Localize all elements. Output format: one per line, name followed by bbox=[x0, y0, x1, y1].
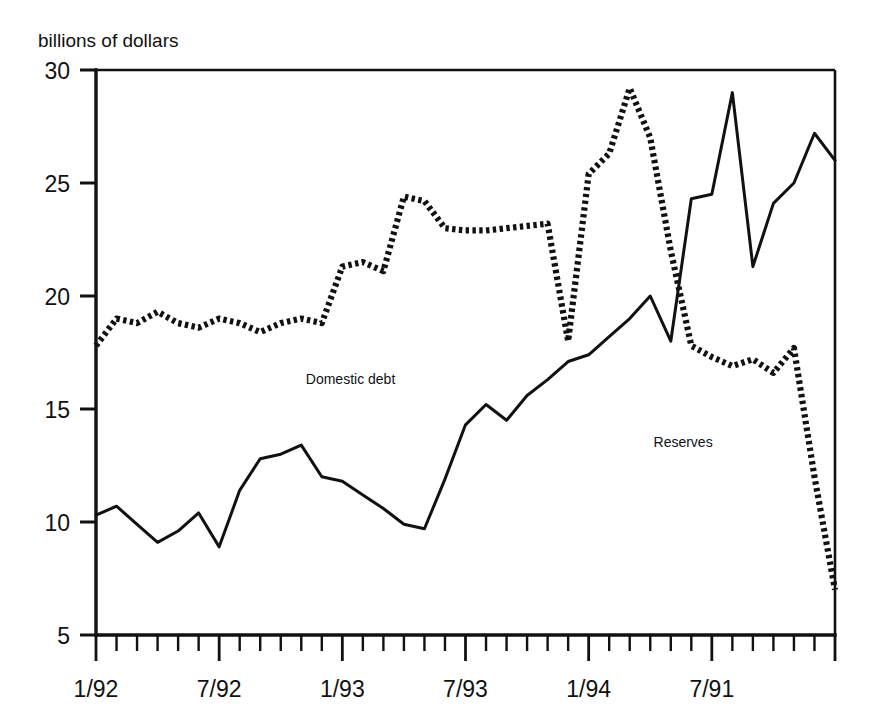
y-axis-ticks bbox=[80, 70, 96, 635]
y-tick-label: 10 bbox=[44, 510, 70, 536]
x-tick-label: 1/92 bbox=[74, 676, 119, 702]
y-tick-label: 30 bbox=[44, 58, 70, 84]
y-tick-label: 5 bbox=[57, 623, 70, 649]
y-tick-label: 15 bbox=[44, 397, 70, 423]
series-annotations: Domestic debtReserves bbox=[306, 371, 713, 450]
series-annotation-label: Reserves bbox=[654, 434, 713, 450]
series-line-domestic-debt bbox=[96, 93, 835, 547]
x-tick-label: 7/92 bbox=[197, 676, 242, 702]
x-tick-label: 7/93 bbox=[443, 676, 488, 702]
y-tick-label: 20 bbox=[44, 284, 70, 310]
x-tick-label: 1/93 bbox=[320, 676, 365, 702]
x-axis-tick-labels: 1/927/921/937/931/947/91 bbox=[74, 676, 735, 702]
line-chart: billions of dollars 51015202530 1/927/92… bbox=[0, 0, 885, 724]
x-axis-ticks bbox=[96, 635, 835, 661]
series-line-reserves bbox=[96, 88, 835, 590]
chart-container: billions of dollars 51015202530 1/927/92… bbox=[0, 0, 885, 724]
y-axis-tick-labels: 51015202530 bbox=[44, 58, 70, 649]
series-annotation-label: Domestic debt bbox=[306, 371, 396, 387]
y-tick-label: 25 bbox=[44, 171, 70, 197]
chart-axis-title: billions of dollars bbox=[38, 30, 178, 51]
x-tick-label: 7/91 bbox=[689, 676, 734, 702]
x-tick-label: 1/94 bbox=[566, 676, 611, 702]
